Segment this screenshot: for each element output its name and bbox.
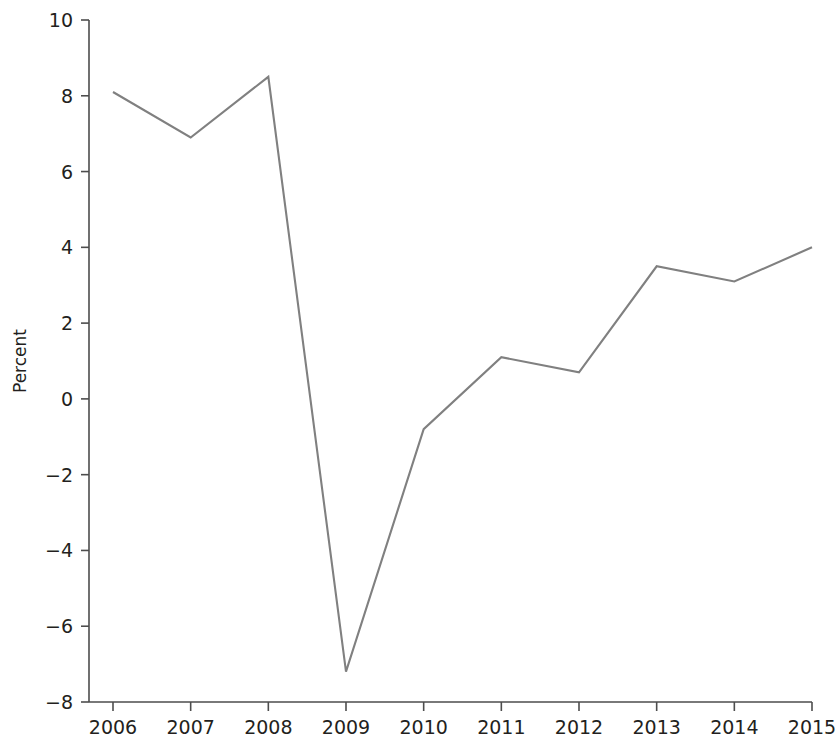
y-tick-label: 10 [49,9,73,31]
x-tick-label: 2012 [555,716,603,738]
y-axis: 1086420−2−4−6−8 [45,9,89,713]
y-tick-label: −2 [45,464,73,486]
y-tick-label: −6 [45,615,73,637]
x-tick-label: 2014 [710,716,758,738]
x-tick-label: 2011 [477,716,525,738]
data-series-group [113,77,812,672]
x-axis: 2006200720082009201020112012201320142015 [89,702,836,738]
y-axis-title-text: Percent [10,329,30,393]
x-tick-label: 2008 [244,716,292,738]
x-tick-label: 2010 [399,716,447,738]
x-tick-label: 2007 [166,716,214,738]
y-tick-label: 2 [61,312,73,334]
series-line-percent [113,77,812,672]
x-tick-label: 2009 [322,716,370,738]
y-tick-label: 4 [61,236,73,258]
x-tick-label: 2013 [632,716,680,738]
y-tick-label: −4 [45,539,73,561]
y-axis-title: Percent [10,329,30,393]
y-tick-label: 8 [61,85,73,107]
x-tick-label: 2006 [89,716,137,738]
x-tick-label: 2015 [788,716,836,738]
line-chart: 1086420−2−4−6−8 200620072008200920102011… [0,0,839,738]
y-tick-label: 0 [61,388,73,410]
y-tick-label: −8 [45,691,73,713]
y-tick-label: 6 [61,161,73,183]
chart-canvas: 1086420−2−4−6−8 200620072008200920102011… [0,0,839,738]
